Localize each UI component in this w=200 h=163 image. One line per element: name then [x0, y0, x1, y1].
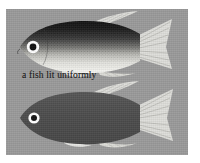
figure-plate: a fish lit uniformly	[6, 9, 188, 155]
panel-uniformly-lit: a fish lit uniformly	[6, 9, 188, 83]
eye-icon	[28, 112, 39, 123]
tail-fin-icon	[137, 19, 172, 69]
caption-uniformly-lit: a fish lit uniformly	[22, 71, 97, 81]
figure-root: a fish lit uniformly	[0, 0, 200, 163]
eye-icon	[27, 41, 39, 53]
mouth-line	[18, 49, 20, 54]
panel-lit-from-above: lit from above	[6, 81, 188, 155]
lit-from-above-fish	[6, 81, 188, 155]
tail-fin-icon	[137, 89, 173, 141]
